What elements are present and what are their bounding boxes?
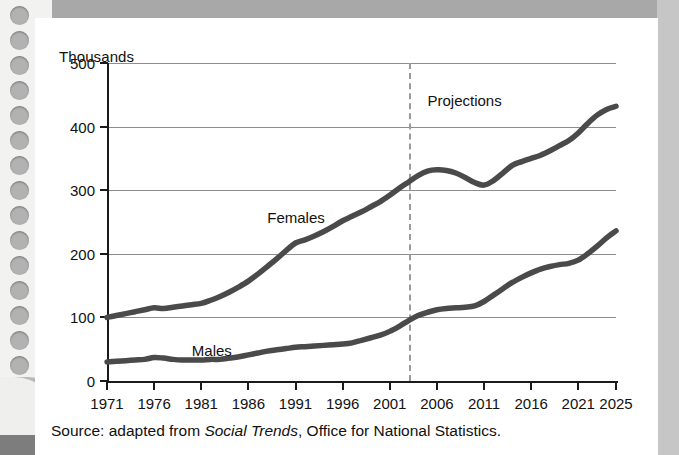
punch-hole (10, 131, 29, 150)
x-axis-tick-label: 2021 (562, 395, 595, 412)
source-note-suffix: , Office for National Statistics. (298, 422, 501, 439)
y-axis-tick-label: 500 (70, 55, 95, 72)
y-axis-tick-label: 300 (70, 182, 95, 199)
series-line-females (107, 106, 616, 317)
source-note-publication: Social Trends (204, 422, 298, 439)
x-axis-tick-label: 1981 (185, 395, 218, 412)
source-note: Source: adapted from Social Trends, Offi… (51, 422, 501, 440)
y-axis-tick-label: 200 (70, 245, 95, 262)
punch-hole (10, 306, 29, 325)
x-axis-tick (295, 382, 297, 390)
line-chart: Thousands 0100200300400500 1971197619811… (35, 18, 658, 418)
x-axis-tick-label: 1986 (232, 395, 265, 412)
source-note-prefix: Source: adapted from (51, 422, 204, 439)
x-axis-tick (247, 382, 249, 390)
x-axis-tick-label: 1996 (326, 395, 359, 412)
punch-hole (10, 356, 29, 375)
series-line-males (107, 231, 616, 362)
y-axis-tick-label: 0 (87, 373, 95, 390)
x-axis-tick (389, 382, 391, 390)
x-axis-tick (106, 382, 108, 390)
x-axis-tick (342, 382, 344, 390)
punch-hole (10, 256, 29, 275)
x-axis-tick-label: 2016 (514, 395, 547, 412)
punch-hole (10, 81, 29, 100)
page-right-shadow-band (657, 0, 679, 455)
punch-hole (10, 281, 29, 300)
y-axis-tick-label: 400 (70, 118, 95, 135)
x-axis-line (107, 381, 618, 383)
scanned-page-background: Thousands 0100200300400500 1971197619811… (0, 0, 679, 455)
series-lines (107, 63, 616, 381)
punch-hole (10, 31, 29, 50)
x-axis-tick (436, 382, 438, 390)
punch-hole (10, 156, 29, 175)
x-axis-tick-label: 1991 (279, 395, 312, 412)
x-axis-tick (615, 382, 617, 390)
x-axis-tick (200, 382, 202, 390)
x-axis-tick-label: 1971 (90, 395, 123, 412)
punch-hole (10, 181, 29, 200)
x-axis-tick (577, 382, 579, 390)
x-axis-tick-label: 1976 (137, 395, 170, 412)
punch-hole (10, 56, 29, 75)
chart-label-projections: Projections (427, 92, 501, 109)
plot-area: 0100200300400500 19711976198119861991199… (107, 63, 616, 381)
x-axis-tick-label: 2011 (468, 395, 500, 412)
punch-hole (10, 6, 29, 25)
figure-card: Thousands 0100200300400500 1971197619811… (35, 18, 658, 455)
chart-label-males: Males (192, 342, 232, 359)
punch-hole (10, 206, 29, 225)
punch-hole (10, 331, 29, 350)
x-axis-tick-label: 2006 (420, 395, 453, 412)
chart-label-females: Females (267, 209, 325, 226)
x-axis-tick-label: 2001 (373, 395, 406, 412)
x-axis-tick-label: 2025 (599, 395, 632, 412)
y-axis-tick-label: 100 (70, 309, 95, 326)
punch-hole (10, 231, 29, 250)
x-axis-tick (153, 382, 155, 390)
x-axis-tick (483, 382, 485, 390)
x-axis-tick (530, 382, 532, 390)
punch-hole (10, 106, 29, 125)
